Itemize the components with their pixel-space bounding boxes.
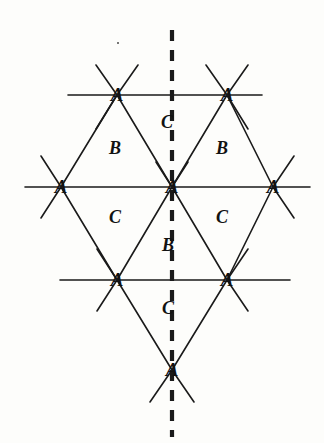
region-label-b-upper-right: B [216, 138, 228, 159]
region-label-c-lower-right: C [216, 207, 228, 228]
region-label-c-top-center: C [161, 112, 173, 133]
vertex-label-a-center: A [166, 176, 179, 198]
region-label-b-bottom-center: B [162, 235, 174, 256]
edge-topright-midright [227, 95, 273, 187]
edge-center-bottomright [172, 187, 227, 280]
region-label-c-lower-left: C [109, 207, 121, 228]
figure-root: AAAAAAAACBBCCBC [0, 0, 324, 443]
vertex-label-a-bottom-right: A [221, 269, 234, 291]
edge-midright-bottomright [227, 187, 273, 280]
edge-center-bottomleft [117, 187, 172, 280]
vertex-label-a-apex-bottom: A [166, 359, 179, 381]
vertex-label-a-top-right: A [221, 84, 234, 106]
vertex-label-a-bottom-left: A [111, 269, 124, 291]
vertex-label-a-mid-right: A [267, 176, 280, 198]
region-label-c-bottom-center: C [162, 298, 174, 319]
ink-speck [117, 42, 119, 44]
lattice-drawing [0, 0, 324, 443]
vertex-label-a-top-left: A [111, 84, 124, 106]
vertex-label-a-mid-left: A [55, 176, 68, 198]
edge-bottomright-apex [172, 280, 227, 370]
region-label-b-upper-left: B [109, 138, 121, 159]
triangle-edges [61, 95, 273, 370]
edge-bottomleft-apex [117, 280, 172, 370]
